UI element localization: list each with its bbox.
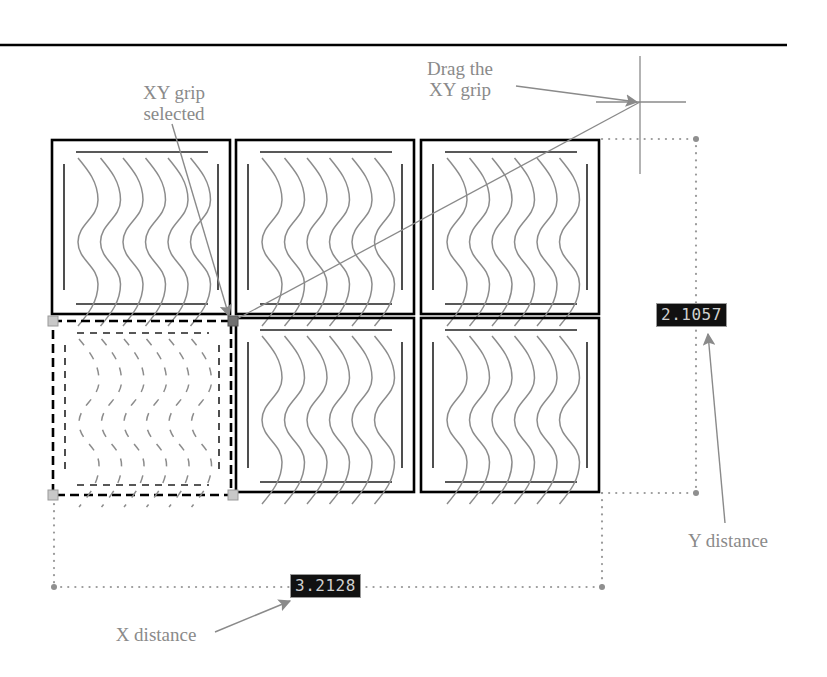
wave-line (375, 158, 395, 326)
grip-top-left[interactable] (48, 316, 58, 326)
tile[interactable] (421, 318, 599, 504)
wave-line (560, 336, 580, 504)
wave-line (285, 336, 305, 504)
wave-line (78, 158, 98, 326)
wave-line (515, 158, 535, 326)
leader-x-distance (215, 601, 290, 632)
wave-line (560, 158, 580, 326)
wave-line (146, 158, 166, 326)
wave-line (330, 158, 350, 326)
wave-line (147, 339, 167, 507)
label-y-distance: Y distance (668, 530, 788, 551)
grip-bottom-left[interactable] (48, 490, 58, 500)
y-distance-input[interactable]: 2.1057 (656, 303, 727, 327)
wave-line (307, 336, 327, 504)
tile[interactable] (52, 140, 230, 326)
tile[interactable] (421, 140, 599, 326)
wave-line (447, 158, 467, 326)
wave-line (192, 339, 212, 507)
label-xy-grip-selected-line2: selected (122, 103, 226, 124)
wave-line (330, 336, 350, 504)
label-x-distance: X distance (96, 624, 216, 645)
wave-line (352, 336, 372, 504)
grips (48, 316, 238, 500)
wave-line (169, 339, 189, 507)
label-drag-line2: XY grip (405, 79, 515, 100)
wave-line (79, 339, 99, 507)
tile[interactable] (236, 318, 414, 504)
x-distance-input[interactable]: 3.2128 (290, 574, 361, 598)
tile-selected[interactable] (53, 321, 231, 507)
crosshair-cursor-icon (596, 56, 686, 174)
tile[interactable] (236, 140, 414, 326)
wave-line (352, 158, 372, 326)
label-xy-grip-selected: XY grip selected (122, 82, 226, 124)
wave-line (492, 158, 512, 326)
wave-line (470, 336, 490, 504)
grip-top-right-selected[interactable] (228, 316, 238, 326)
label-drag-line1: Drag the (405, 58, 515, 79)
wave-line (124, 339, 144, 507)
wave-line (492, 336, 512, 504)
wave-line (375, 336, 395, 504)
label-xy-grip-selected-line1: XY grip (122, 82, 226, 103)
wave-line (447, 336, 467, 504)
wave-line (515, 336, 535, 504)
wave-line (537, 158, 557, 326)
wave-line (101, 158, 121, 326)
tile-grid (52, 140, 599, 507)
wave-line (470, 158, 490, 326)
wave-line (168, 158, 188, 326)
label-drag-xy-grip: Drag the XY grip (405, 58, 515, 100)
wave-line (123, 158, 143, 326)
wave-line (262, 158, 282, 326)
wave-line (307, 158, 327, 326)
grip-bottom-right[interactable] (228, 490, 238, 500)
wave-line (262, 336, 282, 504)
leader-drag-xy-grip (516, 86, 637, 102)
leader-y-distance (708, 334, 725, 523)
wave-line (102, 339, 122, 507)
wave-line (537, 336, 557, 504)
wave-line (285, 158, 305, 326)
